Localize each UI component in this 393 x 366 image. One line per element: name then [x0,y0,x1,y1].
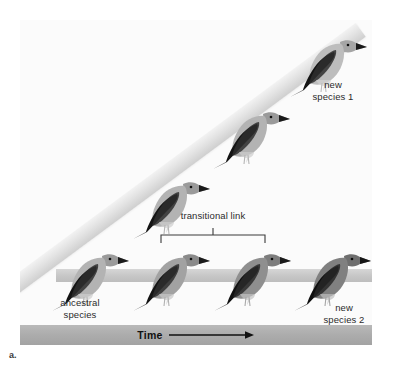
bird-transitional-lower-1 [125,242,211,312]
label-new-species-2: new species 2 [308,302,372,325]
transitional-link-annotation: transitional link [148,210,278,246]
evolution-figure-panel: ancestral species new species 1 new spec… [20,20,372,345]
figure-canvas: ancestral species new species 1 new spec… [20,20,372,345]
time-axis-content: Time [20,325,372,345]
bracket-icon [160,228,266,244]
label-transitional-link: transitional link [148,210,278,221]
time-axis-label: Time [137,329,163,341]
arrow-right-icon [169,330,255,340]
figure-caption: a. [9,350,17,360]
time-axis-bar: Time [20,325,372,345]
bird-transitional-lower-2 [206,242,292,312]
label-new-species-1: new species 1 [297,79,369,102]
label-ancestral-species: ancestral species [40,297,120,320]
bird-transitional-upper-2 [205,100,291,170]
